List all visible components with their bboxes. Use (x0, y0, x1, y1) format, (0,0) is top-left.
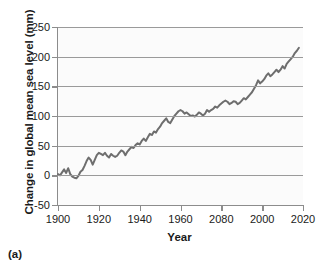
y-axis-tick-label: 250 (32, 22, 50, 33)
x-axis-tick (262, 205, 263, 211)
y-axis-tick (52, 175, 58, 176)
x-axis-tick-label: 1920 (87, 214, 111, 225)
x-axis-tick (99, 205, 100, 211)
gridline (58, 116, 303, 117)
y-axis-tick-label: 150 (32, 81, 50, 92)
x-axis-tick-label: 2080 (209, 214, 233, 225)
x-axis-tick (303, 205, 304, 211)
x-axis-tick-label: 1940 (127, 214, 151, 225)
gridline (58, 86, 303, 87)
gridline (58, 27, 303, 28)
y-axis-tick (52, 146, 58, 147)
y-axis-tick (52, 57, 58, 58)
y-axis-tick (52, 27, 58, 28)
gridline (58, 146, 303, 147)
x-axis-tick (221, 205, 222, 211)
x-axis-tick (58, 205, 59, 211)
x-axis-tick-label: 2000 (250, 214, 274, 225)
y-axis-tick-label: -50 (34, 200, 50, 211)
plot-area: 250200150100500-501900192019401960208020… (57, 27, 303, 206)
figure-panel: Change in global mean sea level (mm) 250… (0, 0, 330, 272)
series-polyline (58, 48, 299, 179)
y-axis-tick (52, 116, 58, 117)
x-axis-tick (181, 205, 182, 211)
gridline (58, 57, 303, 58)
panel-caption: (a) (8, 248, 22, 260)
plot-inner: 250200150100500-501900192019401960208020… (58, 27, 303, 205)
y-axis-tick-label: 0 (44, 170, 50, 181)
zero-reference-line (58, 175, 303, 176)
y-axis-tick-label: 100 (32, 111, 50, 122)
x-axis-tick (140, 205, 141, 211)
x-axis-tick-label: 1900 (46, 214, 70, 225)
x-axis-title: Year (57, 231, 302, 243)
x-axis-tick-label: 2020 (291, 214, 315, 225)
x-axis-tick-label: 1960 (168, 214, 192, 225)
y-axis-tick (52, 86, 58, 87)
y-axis-tick-label: 50 (38, 140, 50, 151)
y-axis-tick-label: 200 (32, 51, 50, 62)
